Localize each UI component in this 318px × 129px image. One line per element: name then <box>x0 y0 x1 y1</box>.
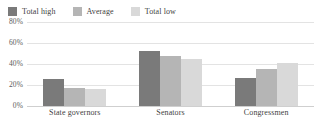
y-axis-tick-label: 60% <box>9 39 23 47</box>
legend-swatch-icon <box>8 7 17 16</box>
bar-group-senators <box>123 22 219 106</box>
x-axis-label: Congressmen <box>218 108 314 118</box>
legend-label: Total low <box>145 7 176 16</box>
plot-area: 80% 60% 40% 20% 0% <box>0 22 318 129</box>
bar-average <box>160 56 181 106</box>
bar-total-high <box>139 51 160 106</box>
legend-label: Average <box>87 7 114 16</box>
bar-total-low <box>277 63 298 106</box>
gridline-baseline <box>27 106 314 107</box>
y-axis: 80% 60% 40% 20% 0% <box>0 22 26 106</box>
bar-group-congressmen <box>218 22 314 106</box>
bar-total-high <box>235 78 256 106</box>
legend-swatch-icon <box>131 7 140 16</box>
y-axis-tick-label: 20% <box>9 81 23 89</box>
x-axis-label: Senators <box>123 108 219 118</box>
legend-swatch-icon <box>73 7 82 16</box>
y-axis-tick-label: 0% <box>13 102 23 110</box>
y-axis-tick-label: 40% <box>9 60 23 68</box>
chart-legend: Total high Average Total low <box>8 4 193 18</box>
bar-total-low <box>181 59 202 106</box>
y-axis-tick-label: 80% <box>9 18 23 26</box>
bar-group-state-governors <box>27 22 123 106</box>
bars-layer <box>27 22 314 106</box>
legend-item-total-low: Total low <box>131 7 176 16</box>
legend-item-total-high: Total high <box>8 7 56 16</box>
bar-average <box>256 69 277 106</box>
x-axis-label: State governors <box>27 108 123 118</box>
bar-total-high <box>43 79 64 106</box>
bar-chart: Total high Average Total low 80% 60% 40%… <box>0 0 318 129</box>
bar-total-low <box>85 89 106 106</box>
x-axis: State governors Senators Congressmen <box>27 108 314 118</box>
bar-average <box>64 88 85 106</box>
legend-item-average: Average <box>73 7 114 16</box>
legend-label: Total high <box>22 7 56 16</box>
